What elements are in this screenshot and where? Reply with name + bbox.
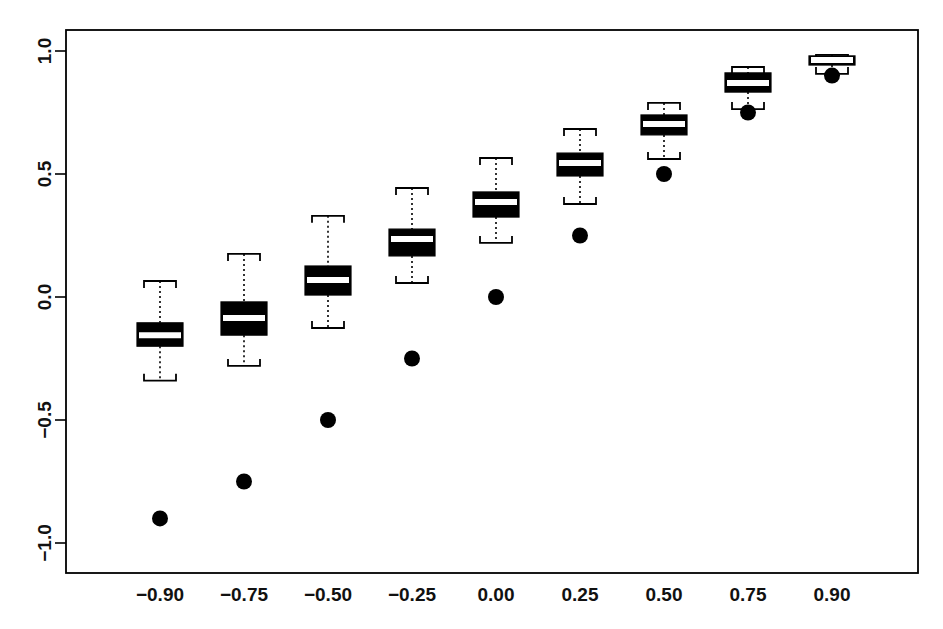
boxplot-group <box>725 67 771 121</box>
boxplot-group <box>809 55 855 84</box>
x-tick-label: 0.90 <box>814 584 851 605</box>
true-value-point <box>824 68 840 84</box>
boxplot-group <box>641 103 687 182</box>
true-value-point <box>404 351 420 367</box>
x-tick-label: 0.25 <box>562 584 599 605</box>
boxplot-group <box>389 188 435 366</box>
y-tick-label: −0.5 <box>34 401 55 439</box>
x-tick-label: 0.00 <box>478 584 515 605</box>
x-tick-label: −0.90 <box>136 584 184 605</box>
x-tick-label: 0.75 <box>730 584 767 605</box>
true-value-point <box>656 166 672 182</box>
boxplot-group <box>221 254 267 490</box>
y-tick-label: 0.0 <box>34 284 55 310</box>
y-tick-label: 1.0 <box>34 38 55 64</box>
chart-canvas: 1.00.50.0−0.5−1.0 −0.90−0.75−0.50−0.250.… <box>0 0 943 629</box>
boxplot-group <box>305 216 351 428</box>
boxplot-group <box>557 129 603 244</box>
boxplot-group <box>137 281 183 526</box>
x-tick-label: −0.25 <box>388 584 437 605</box>
y-axis: 1.00.50.0−0.5−1.0 <box>34 38 67 562</box>
true-value-point <box>152 510 168 526</box>
box-iqr <box>389 229 435 256</box>
true-value-point <box>320 412 336 428</box>
whisker-cap-lower <box>228 359 260 366</box>
x-tick-label: −0.50 <box>304 584 352 605</box>
x-axis: −0.90−0.75−0.50−0.250.000.250.500.750.90 <box>136 584 851 605</box>
true-value-point <box>740 105 756 121</box>
whisker-cap-lower <box>480 236 512 243</box>
true-value-point <box>488 289 504 305</box>
boxplot-figure: 1.00.50.0−0.5−1.0 −0.90−0.75−0.50−0.250.… <box>0 0 943 629</box>
x-tick-label: −0.75 <box>220 584 269 605</box>
y-tick-label: −1.0 <box>34 524 55 562</box>
true-value-point <box>236 474 252 490</box>
x-tick-label: 0.50 <box>646 584 683 605</box>
y-tick-label: 0.5 <box>34 160 55 187</box>
boxplot-group <box>473 158 519 305</box>
boxplot-series <box>137 55 855 526</box>
true-value-point <box>572 228 588 244</box>
